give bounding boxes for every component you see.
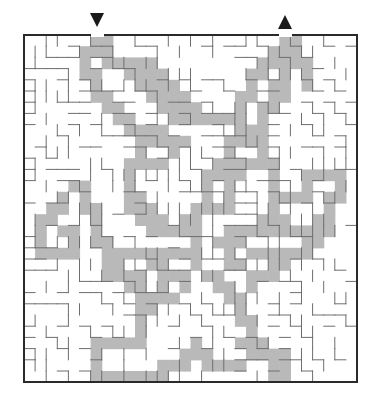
path-cell (246, 158, 258, 170)
path-cell (157, 214, 169, 226)
path-cell (235, 304, 247, 316)
path-cell (157, 125, 169, 137)
path-cell (80, 192, 92, 204)
path-cell (102, 91, 114, 103)
path-cell (146, 57, 158, 69)
path-cell (268, 181, 280, 193)
path-cell (157, 158, 169, 170)
path-cell (279, 69, 291, 81)
path-cell (157, 259, 169, 271)
path-cell (179, 281, 191, 293)
path-cell (279, 360, 291, 372)
path-cell (91, 46, 103, 58)
path-cell (68, 181, 80, 193)
path-cell (168, 225, 180, 237)
path-cell (102, 259, 114, 271)
path-cell (124, 192, 136, 204)
path-cell (135, 69, 147, 81)
path-cell (135, 203, 147, 215)
path-cell (268, 349, 280, 361)
path-cell (302, 69, 314, 81)
path-cell (302, 80, 314, 92)
path-cell (257, 158, 269, 170)
path-cell (135, 326, 147, 338)
path-cell (290, 57, 302, 69)
path-cell (235, 293, 247, 305)
path-cell (224, 181, 236, 193)
path-cell (80, 69, 92, 81)
path-cell (35, 225, 47, 237)
path-cell (146, 91, 158, 103)
path-cell (213, 113, 225, 125)
path-cell (102, 57, 114, 69)
path-cell (57, 192, 69, 204)
path-cell (224, 169, 236, 181)
path-cell (157, 248, 169, 260)
path-cell (46, 203, 58, 215)
path-cell (91, 360, 103, 372)
path-cell (202, 349, 214, 361)
path-cell (179, 136, 191, 148)
path-cell (224, 281, 236, 293)
path-cell (235, 225, 247, 237)
path-cell (302, 181, 314, 193)
path-cell (213, 360, 225, 372)
path-cell (257, 270, 269, 282)
path-cell (102, 337, 114, 349)
path-cell (257, 125, 269, 137)
up-triangle-icon (278, 15, 292, 29)
path-cell (290, 35, 302, 47)
path-cell (135, 80, 147, 92)
path-cell (157, 69, 169, 81)
path-cell (102, 248, 114, 260)
path-cell (35, 248, 47, 260)
path-cell (302, 237, 314, 249)
path-cell (302, 192, 314, 204)
path-cell (146, 80, 158, 92)
path-cell (124, 248, 136, 260)
path-cell (202, 181, 214, 193)
path-cell (268, 360, 280, 372)
path-cell (224, 237, 236, 249)
path-cell (168, 293, 180, 305)
path-cell (124, 69, 136, 81)
path-cell (124, 203, 136, 215)
path-cell (146, 125, 158, 137)
path-cell (157, 136, 169, 148)
path-cell (113, 57, 125, 69)
path-cell (168, 270, 180, 282)
path-cell (57, 203, 69, 215)
path-cell (302, 57, 314, 69)
path-cell (290, 225, 302, 237)
path-cell (146, 304, 158, 316)
path-cell (324, 225, 336, 237)
path-cell (102, 270, 114, 282)
path-cell (268, 214, 280, 226)
maze-board (0, 0, 379, 404)
path-cell (246, 91, 258, 103)
path-cell (246, 349, 258, 361)
path-cell (213, 270, 225, 282)
path-cell (224, 203, 236, 215)
path-cell (91, 69, 103, 81)
path-cell (235, 315, 247, 327)
path-cell (91, 237, 103, 249)
path-cell (279, 225, 291, 237)
path-cell (191, 203, 203, 215)
path-cell (324, 169, 336, 181)
path-cell (157, 102, 169, 114)
path-cell (335, 169, 347, 181)
path-cell (168, 91, 180, 103)
path-cell (290, 192, 302, 204)
path-cell (224, 259, 236, 271)
path-cell (35, 237, 47, 249)
path-cell (313, 225, 325, 237)
path-cell (91, 214, 103, 226)
path-cell (246, 315, 258, 327)
path-cell (257, 214, 269, 226)
path-cell (213, 203, 225, 215)
path-cell (224, 136, 236, 148)
path-cell (68, 248, 80, 260)
path-cell (235, 259, 247, 271)
path-cell (146, 259, 158, 271)
